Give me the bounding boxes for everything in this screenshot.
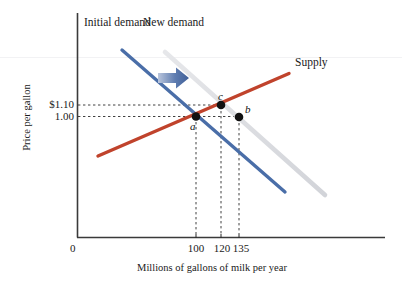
x-tick-label-0: 100 [183, 242, 209, 254]
point-label-c: c [218, 90, 223, 102]
chart-canvas [0, 0, 402, 282]
axis-lines [77, 13, 385, 238]
curve-label-supply: Supply [295, 56, 328, 69]
quantity-guide-lines [196, 106, 239, 234]
x-tick-label-2: 135 [228, 242, 254, 254]
x-axis-title: Millions of gallons of milk per year [117, 262, 307, 274]
point-label-b: b [245, 103, 251, 115]
point-label-a: a [190, 120, 196, 132]
y-tick-label-0: $1.10 [36, 98, 74, 110]
curve-label-initial-demand-text: Initial demand [84, 16, 151, 28]
point-b [235, 113, 244, 122]
curve-initial-demand [122, 50, 285, 192]
supply-demand-chart: Price per gallon $1.10 1.00 0 100 120 13… [0, 0, 402, 282]
curve-new-demand [165, 52, 325, 195]
y-tick-label-1: 1.00 [36, 110, 74, 122]
y-axis-title: Price per gallon [21, 70, 32, 166]
curve-label-new-demand-text: New demand [143, 16, 204, 28]
curve-label-new-demand: New demand [143, 16, 203, 29]
origin-label: 0 [70, 242, 76, 254]
curve-label-initial-demand: Initial demand [84, 16, 146, 29]
